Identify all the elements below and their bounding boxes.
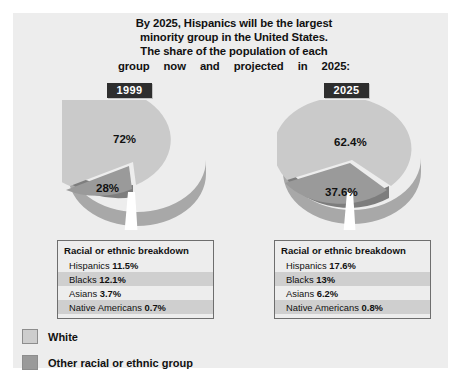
breakdown-title-2025: Racial or ethnic breakdown [275, 244, 430, 258]
pie-1999-svg [62, 100, 212, 230]
breakdown-table-2025: Racial or ethnic breakdown Hispanics 17.… [274, 240, 431, 319]
row-value: 17.6% [329, 260, 356, 271]
year-badge-2025: 2025 [324, 83, 369, 98]
pie-2025-other-label: 37.6% [325, 186, 358, 198]
headline-line-1: By 2025, Hispanics will be the largest [118, 16, 350, 30]
row-group: Native Americans [286, 302, 359, 313]
row-value: 11.5% [112, 260, 138, 271]
table-row: Native Americans 0.8% [275, 300, 430, 314]
legend-label-other: Other racial or ethnic group [48, 357, 193, 369]
table-row: Asians 6.2% [275, 286, 430, 300]
pie-chart-1999: 72% 28% [62, 100, 212, 230]
breakdown-table-1999: Racial or ethnic breakdown Hispanics 11.… [57, 240, 214, 319]
legend-label-white: White [48, 331, 78, 343]
row-group: Hispanics [286, 260, 327, 271]
row-group: Native Americans [69, 302, 142, 313]
legend-swatch-other-icon [22, 355, 38, 370]
table-row: Blacks 12.1% [58, 272, 213, 286]
row-group: Hispanics [69, 260, 110, 271]
pie-chart-2025: 62.4% 37.6% [277, 100, 427, 230]
pie-2025-svg [277, 100, 427, 230]
row-value: 6.2% [317, 288, 338, 299]
legend-swatch-white-icon [22, 329, 38, 344]
row-group: Asians [286, 288, 314, 299]
headline-line-2: minority group in the United States. [118, 30, 350, 44]
breakdown-title-1999: Racial or ethnic breakdown [58, 244, 213, 258]
row-group: Asians [69, 288, 97, 299]
headline-line-4: group now and projected in 2025: [118, 59, 350, 73]
legend-item-white: White [22, 329, 78, 344]
row-value: 0.8% [362, 302, 383, 313]
table-row: Hispanics 11.5% [58, 258, 213, 272]
row-group: Blacks [286, 274, 314, 285]
row-value: 13% [316, 274, 335, 285]
pie-1999-other-label: 28% [96, 182, 119, 194]
headline-line-3: The share of the population of each [118, 44, 350, 58]
row-value: 3.7% [100, 288, 121, 299]
table-row: Hispanics 17.6% [275, 258, 430, 272]
year-badge-1999: 1999 [107, 83, 152, 98]
table-row: Blacks 13% [275, 272, 430, 286]
pie-2025-white-label: 62.4% [334, 136, 367, 148]
table-row: Native Americans 0.7% [58, 300, 213, 314]
legend-item-other: Other racial or ethnic group [22, 355, 193, 370]
pie-1999-white-label: 72% [113, 133, 136, 145]
row-value: 12.1% [99, 274, 126, 285]
infographic-root: By 2025, Hispanics will be the largest m… [0, 0, 462, 385]
row-value: 0.7% [145, 302, 166, 313]
table-row: Asians 3.7% [58, 286, 213, 300]
page-title: By 2025, Hispanics will be the largest m… [118, 16, 350, 73]
row-group: Blacks [69, 274, 97, 285]
